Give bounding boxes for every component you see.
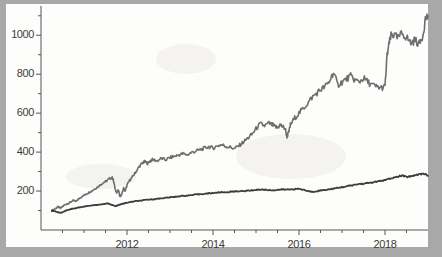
y-axis-tick-label: 800 [0, 67, 34, 79]
chart-series [52, 14, 428, 213]
x-axis-tick-label: 2018 [365, 238, 405, 250]
y-axis-tick-label: 600 [0, 106, 34, 118]
y-axis-tick-label: 400 [0, 145, 34, 157]
y-axis-tick-label: 1000 [0, 28, 34, 40]
x-axis-tick-label: 2012 [107, 238, 147, 250]
chart-figure: 2004006008001000 2012201420162018 [0, 0, 442, 257]
chart-axes [36, 6, 428, 235]
line-chart-plot [0, 0, 442, 257]
x-axis-tick-label: 2014 [193, 238, 233, 250]
y-axis-tick-label: 200 [0, 184, 34, 196]
x-axis-tick-label: 2016 [279, 238, 319, 250]
